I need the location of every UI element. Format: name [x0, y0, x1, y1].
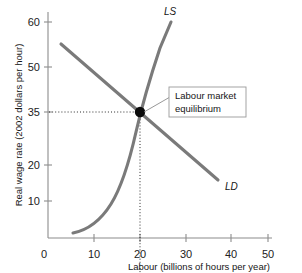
y-tick-label-20: 20 [28, 159, 40, 171]
labour-supply-label: LS [164, 6, 177, 17]
y-tick-label-60: 60 [28, 16, 40, 28]
callout-leader-line [144, 97, 170, 112]
x-axis-title: Labour (billions of hours per year) [128, 261, 270, 272]
chart-svg: 60 50 35 20 10 0 10 20 30 40 50 Real wag… [0, 0, 302, 273]
y-tick-label-50: 50 [28, 61, 40, 73]
labour-demand-label: LD [225, 181, 238, 192]
labour-market-chart: 60 50 35 20 10 0 10 20 30 40 50 Real wag… [0, 0, 302, 273]
y-axis-title: Real wage rate (2002 dollars per hour) [13, 44, 24, 207]
x-tick-label-50: 50 [262, 248, 274, 260]
origin-label: 0 [41, 248, 47, 260]
y-tick-label-35: 35 [28, 106, 40, 118]
callout-line-1: Labour market [175, 90, 237, 101]
x-tick-label-30: 30 [180, 248, 192, 260]
x-tick-label-40: 40 [225, 248, 237, 260]
y-tick-label-10: 10 [28, 195, 40, 207]
x-tick-label-10: 10 [88, 248, 100, 260]
callout-line-2: equilibrium [175, 103, 221, 114]
equilibrium-point-marker [135, 107, 145, 117]
